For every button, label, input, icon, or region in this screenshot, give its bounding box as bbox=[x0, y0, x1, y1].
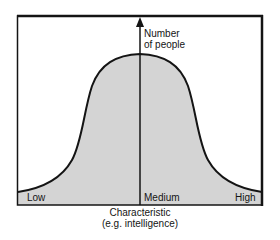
y-axis-label-line1: Number bbox=[144, 28, 185, 39]
y-axis-label: Number of people bbox=[144, 28, 185, 50]
x-category-high: High bbox=[235, 192, 256, 203]
x-axis-label-line2: (e.g. intelligence) bbox=[0, 218, 280, 229]
arrow-up-icon bbox=[136, 17, 144, 27]
x-axis-label-line1: Characteristic bbox=[0, 207, 280, 218]
y-axis-label-line2: of people bbox=[144, 39, 185, 50]
x-axis-label: Characteristic (e.g. intelligence) bbox=[0, 207, 280, 229]
bell-curve-diagram bbox=[0, 0, 280, 240]
x-category-low: Low bbox=[27, 192, 45, 203]
x-category-medium: Medium bbox=[144, 192, 180, 203]
